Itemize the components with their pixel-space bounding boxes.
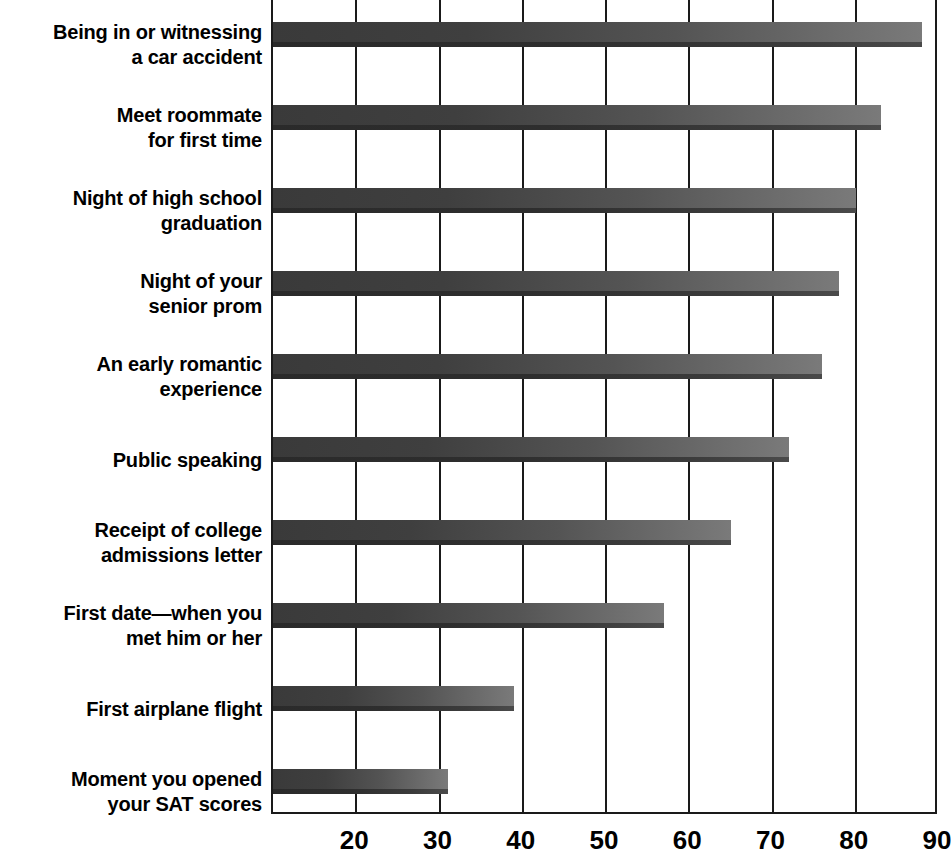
bar-shadow [273,374,822,379]
bar [273,188,856,214]
x-axis-tick-label: 50 [590,825,619,856]
bar-shadow [273,623,664,628]
bar-fill [273,105,881,125]
category-label: Receipt of college admissions letter [0,518,262,568]
bar-fill [273,520,731,540]
bar-shadow [273,457,789,462]
bar-fill [273,188,856,208]
x-axis-tick-label: 20 [340,825,369,856]
category-label: First airplane flight [0,697,262,722]
bar-shadow [273,208,856,213]
category-label-column: Being in or witnessing a car accident Me… [0,0,262,814]
plot-area [271,0,937,814]
bar-fill [273,437,789,457]
x-axis-tick-label: 90 [923,825,951,856]
bar [273,271,839,297]
bar-shadow [273,789,448,794]
x-axis-tick-label: 80 [839,825,868,856]
category-label: First date—when you met him or her [0,601,262,651]
category-label: Night of your senior prom [0,269,262,319]
x-axis-tick-label: 70 [756,825,785,856]
bar [273,437,789,463]
category-label: Being in or witnessing a car accident [0,20,262,70]
x-axis-tick-label: 60 [673,825,702,856]
bar-shadow [273,706,514,711]
bar [273,105,881,131]
category-label: Public speaking [0,448,262,473]
bar [273,769,448,795]
category-label: Meet roommate for first time [0,103,262,153]
bar-shadow [273,42,922,47]
bar-fill [273,686,514,706]
x-axis-tick-label: 40 [506,825,535,856]
bar-shadow [273,125,881,130]
bar-fill [273,603,664,623]
x-axis-tick-labels: 2030405060708090 [0,814,942,863]
bar-fill [273,354,822,374]
bar [273,686,514,712]
bar [273,520,731,546]
x-axis-tick-label: 30 [423,825,452,856]
category-label: Moment you opened your SAT scores [0,767,262,817]
bar [273,603,664,629]
bar-fill [273,271,839,291]
bar-shadow [273,540,731,545]
bar [273,22,922,48]
category-label: An early romantic experience [0,352,262,402]
bar-fill [273,22,922,42]
category-label: Night of high school graduation [0,186,262,236]
bar [273,354,822,380]
bar-fill [273,769,448,789]
bar-shadow [273,291,839,296]
